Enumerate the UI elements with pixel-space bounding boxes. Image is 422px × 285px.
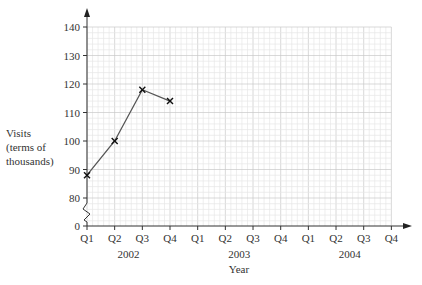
x-tick-label: Q1	[302, 232, 315, 244]
y-axis-label: Visits (terms of thousands)	[6, 126, 54, 168]
x-axis-label: Year	[229, 263, 250, 275]
series-line	[87, 90, 170, 176]
x-tick-label: Q3	[357, 232, 371, 244]
x-tick-label: Q1	[191, 232, 204, 244]
x-tick-label: Q2	[219, 232, 232, 244]
year-label: 2002	[118, 248, 140, 260]
x-tick-label: Q1	[80, 232, 93, 244]
x-tick-label: Q3	[136, 232, 150, 244]
y-axis-label-line-1: Visits	[6, 126, 54, 140]
y-tick-label: 120	[64, 78, 81, 90]
y-tick-label: 140	[64, 21, 81, 33]
y-axis-label-line-2: (terms of	[6, 140, 54, 154]
year-label: 2004	[339, 248, 362, 260]
line-chart: 08090100110120130140 Q1Q2Q3Q4Q1Q2Q3Q4Q1Q…	[0, 0, 422, 285]
y-axis-label-line-3: thousands)	[6, 154, 54, 168]
y-tick-label: 80	[69, 192, 81, 204]
x-tick-label: Q4	[385, 232, 399, 244]
x-tick-label: Q4	[274, 232, 288, 244]
y-tick-label: 90	[69, 164, 81, 176]
x-tick-label: Q3	[246, 232, 260, 244]
x-tick-label: Q2	[329, 232, 342, 244]
y-tick-label: 0	[75, 220, 81, 232]
x-tick-label: Q2	[108, 232, 121, 244]
year-label: 2003	[228, 248, 251, 260]
x-axis-ticks: Q1Q2Q3Q4Q1Q2Q3Q4Q1Q2Q3Q4200220032004	[80, 226, 398, 260]
y-axis-ticks: 08090100110120130140	[64, 21, 88, 232]
data-series	[84, 87, 173, 179]
y-tick-label: 100	[64, 135, 81, 147]
x-tick-label: Q4	[163, 232, 177, 244]
grid	[87, 27, 391, 226]
y-tick-label: 130	[64, 50, 81, 62]
y-tick-label: 110	[64, 107, 81, 119]
